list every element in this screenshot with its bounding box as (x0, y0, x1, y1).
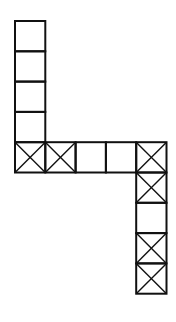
empty-cell (15, 112, 45, 142)
empty-cell (106, 142, 136, 172)
crossed-cell (45, 142, 75, 172)
empty-cell (15, 51, 45, 81)
cell-border (106, 142, 136, 172)
cell-border (15, 51, 45, 81)
crossed-cell (15, 142, 45, 172)
crossed-cell (136, 142, 166, 172)
empty-cell (15, 21, 45, 51)
cell-border (136, 203, 166, 233)
cells-layer (15, 21, 167, 294)
cell-border (76, 142, 106, 172)
empty-cell (15, 82, 45, 112)
empty-cell (76, 142, 106, 172)
crossed-cell (136, 173, 166, 203)
cell-border (15, 112, 45, 142)
cell-border (15, 21, 45, 51)
crossed-cell (136, 233, 166, 263)
cell-border (15, 82, 45, 112)
cell-strip-diagram (0, 0, 176, 322)
crossed-cell (136, 263, 166, 293)
empty-cell (136, 203, 166, 233)
